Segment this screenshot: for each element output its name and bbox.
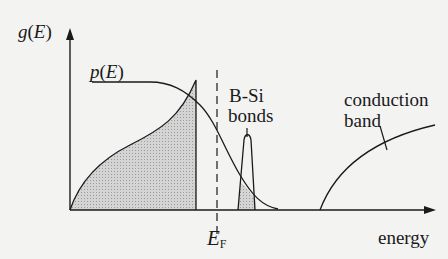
- conduction-label-line1: conduction: [344, 90, 428, 109]
- occupation-label-func: p: [90, 61, 100, 82]
- y-axis-label: g(E): [18, 22, 52, 41]
- x-axis-arrow-icon: [424, 206, 436, 214]
- fermi-subscript: F: [220, 237, 227, 251]
- x-axis-label: energy: [378, 228, 429, 247]
- diagram-canvas: g(E) p(E) B-Si bonds conduction band EF …: [0, 0, 448, 259]
- fermi-level-label: EF: [207, 228, 227, 250]
- conduction-band-curve: [320, 125, 435, 210]
- y-label-func: g: [18, 21, 28, 42]
- conduction-leader-tick: [380, 126, 387, 150]
- bsi-label-line2: bonds: [228, 106, 273, 125]
- y-axis-arrow-icon: [66, 28, 74, 40]
- y-label-arg: E: [34, 21, 46, 42]
- conduction-label-line2: band: [344, 111, 381, 130]
- occupation-label: p(E): [90, 62, 124, 81]
- bsi-label-line1: B-Si: [229, 86, 264, 105]
- occupation-label-arg: E: [106, 61, 118, 82]
- valence-band-fill: [70, 80, 196, 210]
- fermi-symbol: E: [207, 226, 220, 250]
